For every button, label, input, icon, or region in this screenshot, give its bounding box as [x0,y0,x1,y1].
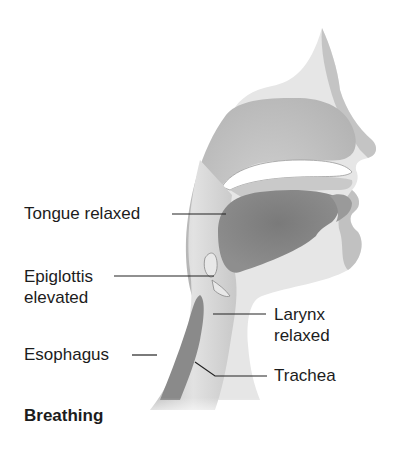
diagram-caption: Breathing [24,406,103,426]
epiglottis [204,253,217,277]
label-epiglottis: Epiglottis [24,267,93,287]
label-esophagus: Esophagus [24,345,109,365]
head-throat-illustration [0,0,399,454]
label-tongue-relaxed: Tongue relaxed [24,204,140,224]
label-trachea: Trachea [274,366,336,386]
label-larynx: Larynx [274,305,325,325]
label-epiglottis-elevated: elevated [24,288,88,308]
diagram-canvas: Tongue relaxed Epiglottis elevated Esoph… [0,0,399,454]
bottom-fade [130,330,280,420]
label-larynx-relaxed: relaxed [274,326,330,346]
